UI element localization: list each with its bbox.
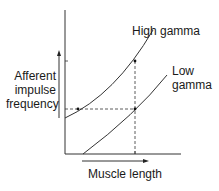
y-axis-label: Afferent impulse frequency	[6, 69, 56, 111]
point-high-gamma-upper	[134, 60, 137, 63]
y-label-line-2: impulse	[6, 83, 56, 97]
y-label-line-1: Afferent	[6, 69, 56, 83]
point-low-gamma	[134, 108, 137, 111]
x-axis-label: Muscle length	[88, 167, 162, 181]
low-gamma-curve	[83, 75, 167, 154]
low-gamma-line-1: Low	[172, 64, 212, 78]
high-gamma-label: High gamma	[132, 24, 200, 38]
y-arrow-head-icon	[57, 50, 61, 56]
x-arrow-head-icon	[143, 159, 149, 163]
y-label-line-3: frequency	[6, 97, 56, 111]
low-gamma-line-2: gamma	[172, 78, 212, 92]
point-high-gamma-left	[77, 108, 80, 111]
low-gamma-label: Low gamma	[172, 64, 212, 92]
